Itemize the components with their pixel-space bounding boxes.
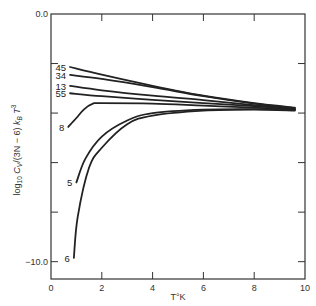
curve-55 xyxy=(70,93,295,109)
y-axis-title: log10 CV/(3N − 6) kB T3 xyxy=(10,104,23,195)
x-tick-label: 8 xyxy=(252,283,257,293)
curve-label-6: 6 xyxy=(65,253,70,264)
curve-label-5: 5 xyxy=(67,177,72,188)
plot-border xyxy=(51,14,305,279)
y-tick-label: 0.0 xyxy=(35,9,48,19)
curve-labels: 45341355856 xyxy=(55,62,72,264)
x-axis-title: T°K xyxy=(170,292,185,302)
curve-label-34: 34 xyxy=(55,70,66,81)
curve-label-55: 55 xyxy=(55,88,66,99)
plot-frame xyxy=(51,14,305,279)
x-tick-label: 4 xyxy=(150,283,155,293)
y-axis-ticks: 0.0−10.0 xyxy=(25,9,305,267)
curve-5 xyxy=(76,109,294,182)
curves xyxy=(68,67,295,258)
x-tick-label: 2 xyxy=(99,283,104,293)
x-tick-label: 0 xyxy=(48,283,53,293)
y-tick-label: −10.0 xyxy=(25,257,48,267)
x-tick-label: 10 xyxy=(300,283,310,293)
line-chart: 0246810 0.0−10.0 45341355856 T°K log10 C… xyxy=(0,0,316,306)
curve-label-8: 8 xyxy=(59,122,64,133)
x-tick-label: 6 xyxy=(201,283,206,293)
